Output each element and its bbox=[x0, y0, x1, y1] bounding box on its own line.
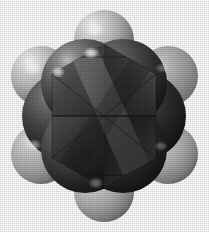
highlight-carbon-upper-left bbox=[51, 66, 65, 78]
molecule-canvas bbox=[0, 0, 209, 232]
core-ambient-shade bbox=[52, 44, 156, 188]
highlight-hydrogen-lower-right bbox=[154, 141, 168, 151]
molecule-figure: Benzene C6H6 Grayscale space-filling (CP… bbox=[0, 0, 209, 232]
highlight-hydrogen-top bbox=[86, 23, 104, 37]
highlight-carbon-top-center bbox=[83, 47, 99, 59]
highlight-hydrogen-upper-right bbox=[155, 63, 169, 73]
highlight-hydrogen-upper-left bbox=[24, 61, 42, 75]
highlight-hydrogen-lower-left bbox=[26, 139, 42, 151]
highlight-hydrogen-bottom bbox=[88, 177, 104, 189]
